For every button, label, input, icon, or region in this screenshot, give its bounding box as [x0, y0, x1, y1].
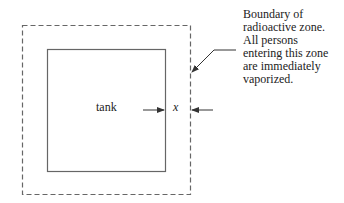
gap-distance-label: x: [173, 101, 178, 114]
callout-leader-line: [192, 50, 236, 72]
tank-label: tank: [96, 101, 117, 114]
callout-line: vaporized.: [243, 73, 343, 86]
boundary-callout-text: Boundary of radioactive zone. All person…: [243, 8, 343, 86]
